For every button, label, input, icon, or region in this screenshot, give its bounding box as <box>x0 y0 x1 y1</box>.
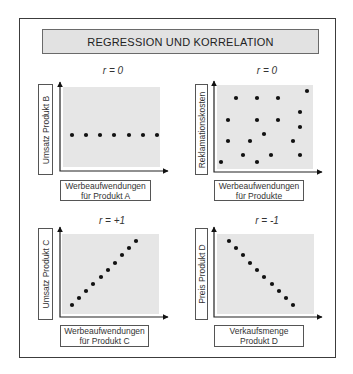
scatter-plots-overlay <box>0 0 353 374</box>
data-point <box>112 133 116 137</box>
data-point <box>298 110 302 114</box>
data-point <box>298 125 302 129</box>
data-point <box>255 160 259 164</box>
data-point <box>234 246 238 250</box>
panel-b-axes <box>214 81 322 172</box>
data-point <box>291 139 295 143</box>
data-point <box>113 261 117 265</box>
data-point <box>276 118 280 122</box>
data-point <box>269 153 273 157</box>
data-point <box>262 132 266 136</box>
data-point <box>120 253 124 257</box>
data-point <box>277 289 281 293</box>
data-point <box>155 133 159 137</box>
data-point <box>241 253 245 257</box>
data-point <box>298 153 302 157</box>
data-point <box>91 282 95 286</box>
data-point <box>248 261 252 265</box>
data-point <box>84 133 88 137</box>
data-point <box>127 246 131 250</box>
data-point <box>99 275 103 279</box>
axes <box>60 81 322 317</box>
data-point <box>255 268 259 272</box>
data-point <box>70 133 74 137</box>
data-point <box>77 296 81 300</box>
data-point <box>84 289 88 293</box>
panel-c-axes <box>60 227 168 317</box>
data-point <box>255 118 259 122</box>
data-point <box>234 96 238 100</box>
data-point <box>291 303 295 307</box>
data-point <box>127 133 131 137</box>
data-point <box>141 133 145 137</box>
data-point <box>226 118 230 122</box>
data-point <box>106 268 110 272</box>
data-point <box>134 239 138 243</box>
data-point <box>70 303 74 307</box>
data-point <box>98 133 102 137</box>
data-point <box>226 139 230 143</box>
data-point <box>284 296 288 300</box>
data-point <box>241 153 245 157</box>
data-point <box>219 160 223 164</box>
data-point <box>255 96 259 100</box>
data-point <box>305 89 309 93</box>
data-point <box>262 275 266 279</box>
data-point <box>227 239 231 243</box>
data-point <box>270 282 274 286</box>
data-points <box>70 89 309 307</box>
data-point <box>248 139 252 143</box>
data-point <box>276 96 280 100</box>
panel-a-axes <box>60 82 168 171</box>
